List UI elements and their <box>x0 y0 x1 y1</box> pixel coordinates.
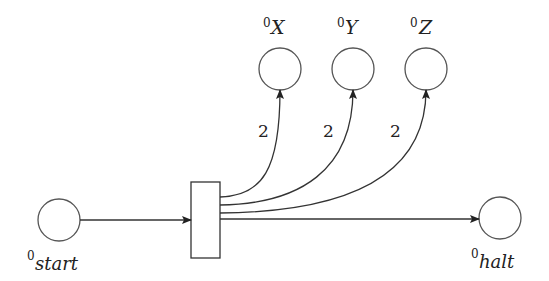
svg-text:0: 0 <box>337 16 345 30</box>
place-y <box>332 48 374 90</box>
place-x <box>259 48 301 90</box>
svg-text:start: start <box>35 253 79 274</box>
arc-transition-to-z <box>220 90 426 213</box>
arc-weight-z: 2 <box>390 121 401 141</box>
svg-text:Z: Z <box>418 16 433 38</box>
label-z: 0 Z <box>410 16 433 38</box>
svg-text:halt: halt <box>479 251 515 272</box>
place-z <box>405 48 447 90</box>
svg-text:0: 0 <box>471 247 479 261</box>
place-start <box>38 199 80 241</box>
svg-text:Y: Y <box>345 16 360 38</box>
transition <box>191 182 220 258</box>
svg-text:0: 0 <box>410 16 418 30</box>
place-halt <box>479 197 521 239</box>
svg-text:0: 0 <box>27 249 35 263</box>
arc-transition-to-x <box>220 90 280 197</box>
label-y: 0 Y <box>337 16 360 38</box>
svg-text:0: 0 <box>263 16 271 30</box>
label-x: 0 X <box>263 16 286 38</box>
svg-text:X: X <box>269 16 286 38</box>
arc-weight-y: 2 <box>323 121 334 141</box>
arc-weight-x: 2 <box>258 121 269 141</box>
petri-net-diagram: 2 2 2 0 X 0 Y 0 Z 0 start 0 halt <box>0 0 549 281</box>
arc-transition-to-y <box>220 90 353 205</box>
label-halt: 0 halt <box>471 247 515 272</box>
label-start: 0 start <box>27 249 79 274</box>
